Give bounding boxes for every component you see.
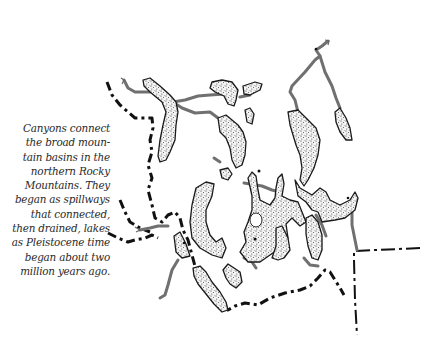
rivers [124, 41, 357, 298]
town-dot-icon [183, 242, 186, 245]
rocky-mountain-basin-map [0, 0, 436, 347]
state-boundary-line [354, 248, 420, 335]
basins [143, 78, 358, 312]
town-dot-icon [347, 197, 350, 200]
town-dot-icon [258, 170, 261, 173]
town-dot-icon [254, 238, 257, 241]
border-branch-line [108, 233, 158, 242]
inner-lake-icon [250, 213, 262, 227]
town-dot-icon [315, 48, 318, 51]
